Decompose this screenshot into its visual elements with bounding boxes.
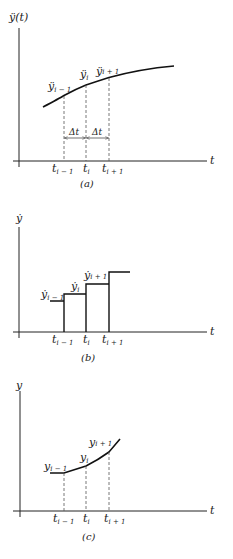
- tick-label-t-i: ti: [83, 512, 90, 526]
- panel-b: ẏ t ẏi − 1 ẏi ẏi + 1 ti − 1 ti ti + 1 (b…: [13, 212, 215, 363]
- tick-label-t-i-minus-1: ti − 1: [52, 162, 73, 176]
- x-axis-label: t: [210, 154, 215, 167]
- point-label-ydot-i-plus-1: ẏi + 1: [83, 269, 107, 282]
- point-label-y-i-minus-1: ÿi − 1: [47, 80, 71, 94]
- point-label-y-i-plus-1: yi + 1: [88, 436, 112, 449]
- tick-label-t-i: ti: [83, 162, 90, 176]
- panel-c: y t yi − 1 yi yi + 1 ti − 1 ti ti + 1 (c…: [13, 379, 215, 542]
- y-axis-label: ÿ(t): [8, 11, 28, 24]
- tick-label-t-i-minus-1: ti − 1: [52, 333, 73, 347]
- y-axis-label: y: [15, 379, 23, 392]
- caption-a: (a): [80, 178, 94, 189]
- point-label-y-i-minus-1: yi − 1: [43, 460, 67, 473]
- interval-label-2: Δt: [91, 127, 102, 137]
- tick-label-t-i-minus-1: ti − 1: [53, 512, 74, 526]
- interval-label-1: Δt: [68, 127, 79, 137]
- x-axis-label: t: [210, 325, 215, 338]
- tick-label-t-i-plus-1: ti + 1: [102, 333, 123, 347]
- tick-label-t-i-plus-1: ti + 1: [104, 512, 125, 526]
- numerical-integration-diagram: ÿ(t) t ÿi − 1 ÿi ÿi + 1 Δt Δt ti − 1 ti …: [0, 0, 233, 559]
- point-label-ydot-i: ẏi: [70, 280, 79, 294]
- caption-c: (c): [82, 531, 96, 542]
- tick-label-t-i: ti: [83, 333, 90, 347]
- caption-b: (b): [81, 352, 95, 363]
- x-axis-label: t: [210, 504, 215, 517]
- point-label-y-i: ÿi: [79, 68, 88, 82]
- point-label-ydot-i-minus-1: ẏi − 1: [40, 288, 64, 302]
- panel-a: ÿ(t) t ÿi − 1 ÿi ÿi + 1 Δt Δt ti − 1 ti …: [8, 11, 215, 189]
- tick-label-t-i-plus-1: ti + 1: [102, 162, 123, 176]
- point-label-y-i: yi: [79, 451, 88, 465]
- y-axis-label: ẏ: [15, 212, 23, 225]
